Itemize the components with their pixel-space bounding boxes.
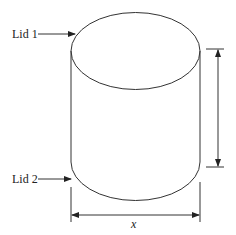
lid-1-label: Lid 1 — [12, 27, 38, 41]
bottom-lid-arc — [71, 162, 200, 201]
top-lid-ellipse — [71, 13, 200, 90]
width-dim-label: x — [130, 217, 137, 231]
cylinder-diagram: Lid 1 Lid 2 x — [0, 0, 236, 235]
lid-2-label: Lid 2 — [12, 172, 38, 186]
